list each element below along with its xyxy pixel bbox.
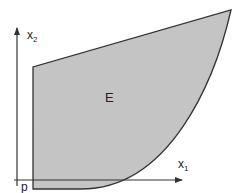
x-axis-label: x1 [178, 157, 189, 173]
diagram-canvas: x2 x1 E p [0, 0, 243, 193]
point-p-label: p [21, 180, 28, 193]
region-label: E [105, 90, 114, 105]
y-axis-label: x2 [27, 28, 38, 44]
region-e [33, 10, 231, 189]
